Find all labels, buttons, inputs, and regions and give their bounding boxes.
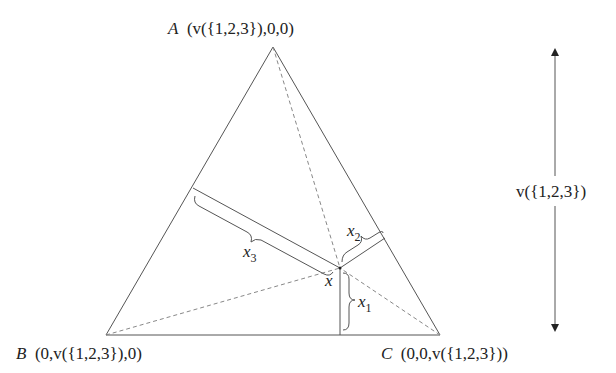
perpendicular-x3: [193, 188, 340, 268]
vertex-c-name: C: [381, 344, 392, 363]
perpendicular-x2: [340, 238, 385, 268]
dashed-line-c-x: [340, 268, 440, 335]
vertex-c-coords: (0,0,v({1,2,3})): [401, 344, 508, 363]
dashed-line-b-x: [106, 268, 340, 335]
triangle-abc: [106, 47, 440, 335]
distance-x3-label: x3: [243, 243, 257, 260]
distance-x1-label: x1: [358, 293, 372, 310]
dashed-line-a-x: [273, 47, 340, 268]
distance-x2-label: x2: [347, 222, 361, 239]
vertex-a-label: A (v({1,2,3}),0,0): [168, 20, 294, 37]
vertex-a-name: A: [168, 19, 178, 38]
vertex-b-label: B (0,v({1,2,3}),0): [16, 345, 142, 362]
point-x-label: x: [325, 272, 333, 289]
vertex-a-coords: (v({1,2,3}),0,0): [187, 19, 294, 38]
vertex-b-coords: (0,v({1,2,3}),0): [35, 344, 142, 363]
vertex-b-name: B: [16, 344, 26, 363]
brace-x3: [195, 196, 334, 275]
point-x-marker: [339, 267, 342, 270]
height-label: v({1,2,3}): [514, 183, 588, 200]
vertex-c-label: C (0,0,v({1,2,3})): [381, 345, 508, 362]
brace-x1: [343, 273, 355, 330]
